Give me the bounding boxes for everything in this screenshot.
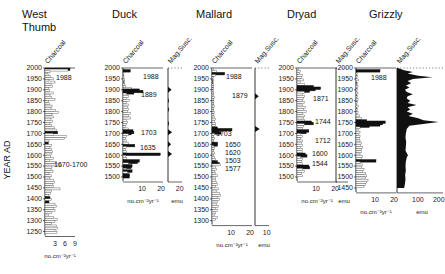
- charcoal-bar: [356, 92, 358, 94]
- y-tick-label: 1400: [193, 195, 209, 202]
- year-annotation: 1620: [225, 149, 241, 156]
- charcoal-bar: [45, 81, 55, 83]
- charcoal-bar: [297, 77, 302, 79]
- charcoal-bar: [297, 102, 304, 104]
- charcoal-bar: [212, 77, 213, 79]
- charcoal-bar: [356, 108, 357, 110]
- charcoal-bar: [297, 100, 302, 102]
- y-tick-label: 1500: [193, 173, 209, 180]
- charcoal-bar: [45, 223, 52, 225]
- charcoal-bar: [356, 72, 357, 74]
- y-tick-label: 1550: [337, 162, 353, 169]
- charcoal-bar: [212, 68, 214, 70]
- y-tick-label: 1300: [26, 217, 42, 224]
- charcoal-bar: [123, 136, 127, 138]
- charcoal-bar: [45, 76, 50, 78]
- charcoal-bar: [297, 83, 304, 85]
- y-tick-label: 1600: [193, 152, 209, 159]
- charcoal-bar: [212, 112, 214, 114]
- site-panels: WestThumb2000195019001850180017501700165…: [22, 8, 445, 259]
- charcoal-bar: [212, 92, 214, 94]
- panel-duck: Duck200019501900185018001750170016501600…: [104, 8, 193, 204]
- charcoal-bar: [356, 133, 359, 135]
- x-tick-label: 10: [138, 185, 146, 192]
- charcoal-bar: [297, 126, 303, 128]
- charcoal-bar: [212, 201, 217, 203]
- charcoal-bar: [297, 106, 305, 108]
- charcoal-bar: [212, 81, 213, 83]
- y-tick-label: 1500: [278, 173, 294, 180]
- mag-susc-spike: [168, 98, 169, 104]
- year-annotation: 1600: [312, 150, 328, 157]
- charcoal-bar: [123, 157, 127, 159]
- charcoal-bar: [123, 95, 128, 97]
- charcoal-bar: [45, 184, 53, 186]
- charcoal-bar: [356, 105, 359, 107]
- charcoal-bar: [356, 149, 361, 151]
- charcoal-bar: [356, 146, 363, 148]
- charcoal-bar: [123, 153, 160, 156]
- charcoal-bar: [212, 210, 217, 212]
- charcoal-bar: [356, 112, 358, 114]
- charcoal-bar: [356, 164, 363, 166]
- charcoal-bar: [212, 136, 214, 138]
- charcoal-bar: [297, 170, 304, 172]
- charcoal-bar: [212, 114, 214, 116]
- charcoal-bar: [212, 179, 216, 181]
- charcoal-bar: [123, 76, 124, 78]
- y-tick-label: 1850: [278, 97, 294, 104]
- charcoal-bar: [45, 175, 52, 177]
- y-tick-label: 1500: [26, 173, 42, 180]
- charcoal-bar: [45, 203, 55, 205]
- charcoal-bar: [297, 115, 304, 117]
- charcoal-bar: [45, 210, 55, 212]
- charcoal-bar: [356, 79, 359, 81]
- charcoal-bar: [356, 138, 359, 140]
- charcoal-bar: [297, 146, 301, 148]
- y-tick-label: 1950: [104, 75, 120, 82]
- charcoal-bar: [356, 170, 363, 172]
- y-tick-label: 1550: [104, 162, 120, 169]
- charcoal-bar: [356, 184, 365, 186]
- charcoal-bar: [212, 70, 217, 72]
- charcoal-bar: [45, 160, 50, 162]
- charcoal-bar: [212, 133, 215, 135]
- charcoal-bar: [45, 92, 53, 94]
- charcoal-bar: [212, 85, 214, 87]
- charcoal-bar: [297, 75, 302, 77]
- charcoal-bar: [356, 117, 361, 119]
- charcoal-bar: [356, 95, 357, 97]
- charcoal-bar: [123, 117, 130, 119]
- charcoal-bar: [123, 140, 127, 142]
- charcoal-bar: [212, 216, 217, 218]
- y-tick-label: 1700: [26, 130, 42, 137]
- y-tick-label: 1600: [104, 152, 120, 159]
- charcoal-bar: [45, 221, 55, 223]
- charcoal-bar: [356, 136, 360, 138]
- charcoal-bar: [45, 96, 51, 98]
- x-tick-label: 3: [53, 240, 57, 247]
- charcoal-unit-label: no.cm⁻²yr⁻¹: [44, 253, 75, 259]
- y-tick-label: 1550: [193, 162, 209, 169]
- charcoal-bar: [45, 166, 52, 168]
- charcoal-bar: [45, 188, 60, 190]
- charcoal-bar: [297, 175, 302, 177]
- charcoal-bar: [212, 120, 215, 122]
- charcoal-bar: [45, 140, 49, 142]
- charcoal-bar: [297, 173, 302, 175]
- charcoal-bar: [356, 76, 357, 78]
- y-tick-label: 1950: [26, 75, 42, 82]
- year-annotation: 1703: [216, 130, 232, 137]
- charcoal-bar: [45, 83, 51, 85]
- charcoal-bar: [356, 173, 365, 175]
- charcoal-bar: [297, 161, 302, 163]
- site-title: Duck: [112, 8, 138, 20]
- y-tick-label: 1950: [193, 75, 209, 82]
- x-tick-label: 9: [73, 240, 77, 247]
- charcoal-bar: [212, 107, 214, 109]
- y-tick-label: 1800: [193, 108, 209, 115]
- charcoal-bar: [45, 153, 52, 155]
- charcoal-bar: [212, 173, 216, 175]
- y-tick-label: 2000: [104, 64, 120, 71]
- charcoal-bar: [356, 179, 368, 181]
